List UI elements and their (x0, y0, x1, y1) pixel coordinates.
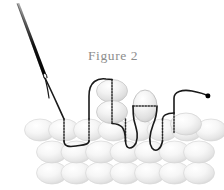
thread-arc-end (174, 90, 208, 113)
needle-eye (43, 73, 48, 79)
needle-shaft (17, 3, 48, 79)
thread-step-right (163, 113, 175, 119)
sewing-needle (17, 3, 48, 79)
bead-row-bottom (37, 162, 215, 184)
bead (184, 141, 215, 163)
thread-from-needle (45, 78, 64, 119)
figure-caption: Figure 2 (88, 48, 138, 63)
figure-container: Figure 2 (0, 0, 224, 190)
beadwork-diagram-svg: Figure 2 (0, 0, 224, 190)
thread-end-dot (206, 94, 211, 99)
needle-edge (17, 4, 44, 79)
bead-under-end (171, 113, 202, 135)
bead (184, 162, 215, 184)
